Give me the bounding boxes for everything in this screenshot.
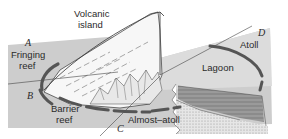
atoll-label: Atoll: [240, 39, 258, 50]
fringing-reef-label-1: Fringing: [11, 49, 45, 60]
barrier-reef-label-1: Barrier: [51, 103, 80, 114]
volcanic-island-label-1: Volcanic: [74, 8, 110, 19]
lagoon-label: Lagoon: [202, 62, 234, 73]
volcanic-island-label-2: island: [78, 19, 103, 30]
sea-surface-c-d: [160, 28, 272, 90]
stage-c-letter: C: [117, 123, 124, 134]
stage-b-letter: B: [27, 90, 33, 101]
almost-atoll-label: Almost–atoll: [128, 114, 180, 125]
stage-a-letter: A: [24, 37, 32, 48]
barrier-reef-label-2: reef: [56, 114, 73, 125]
reef-formation-diagram: Volcanic island A Fringing reef B Barrie…: [0, 0, 288, 139]
stage-d-letter: D: [257, 27, 266, 38]
fringing-reef-label-2: reef: [19, 60, 36, 71]
